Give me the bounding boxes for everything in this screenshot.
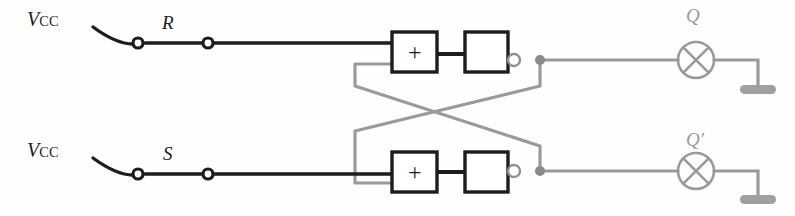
circuit-svg (0, 0, 795, 216)
vcc-top-symbol: V (27, 8, 39, 30)
bubble-icon-bottom (508, 165, 520, 177)
contact-s-right[interactable] (203, 169, 213, 179)
junction-dot-q (535, 55, 545, 65)
switch-contacts (133, 38, 213, 179)
wire-lamp-qprime-to-ground (714, 171, 758, 195)
circuit-diagram: VCC VCC R S Q Q′ + + (0, 0, 795, 216)
lamp-q (678, 42, 714, 78)
ground-icon-q-prime (740, 195, 776, 204)
vcc-top-subscript: CC (39, 13, 59, 29)
label-output-q: Q (686, 5, 700, 27)
contact-r-right[interactable] (203, 38, 213, 48)
feedback-bottom-to-top (355, 64, 540, 171)
label-switch-r: R (162, 12, 174, 34)
vcc-bottom-subscript: CC (39, 144, 59, 160)
label-adder-plus-top: + (408, 39, 422, 66)
junction-dot-q-prime (535, 166, 545, 176)
lamp-q-prime (678, 153, 714, 189)
output-wires (540, 60, 758, 195)
buffer-box-bottom (465, 152, 508, 192)
label-vcc-bottom: VCC (27, 139, 59, 162)
contact-s-left[interactable] (133, 169, 143, 179)
buffer-box-top (465, 32, 508, 72)
label-switch-s: S (163, 143, 173, 165)
label-output-q-prime: Q′ (686, 129, 704, 151)
vcc-bottom-lead (93, 158, 133, 175)
contact-r-left[interactable] (133, 38, 143, 48)
bubble-icon-top (508, 54, 520, 66)
label-vcc-top: VCC (27, 8, 59, 31)
wire-lamp-q-to-ground (714, 60, 758, 85)
vcc-top-lead (93, 27, 133, 44)
vcc-bottom-symbol: V (27, 139, 39, 161)
ground-icon-q (740, 85, 776, 94)
label-adder-plus-bottom: + (408, 159, 422, 186)
inversion-bubbles (508, 54, 520, 177)
